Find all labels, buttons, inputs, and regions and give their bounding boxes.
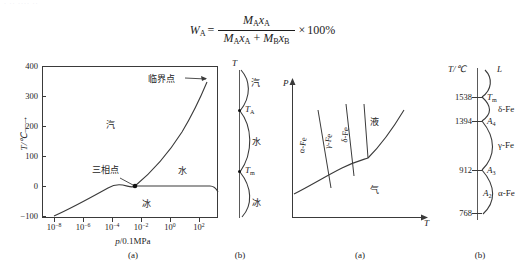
- water-triple-point-label: 三相点: [92, 163, 119, 176]
- water-tm-label: Tm: [245, 165, 255, 176]
- iron-point-a3: A3: [487, 165, 496, 176]
- iron-point-tm: Tm: [487, 92, 497, 103]
- iron-phase-boundaries: [292, 84, 428, 218]
- critical-point-arrowhead: [201, 76, 207, 81]
- formula-times: ×: [299, 23, 306, 38]
- iron-gamma-brace: [482, 121, 493, 170]
- iron-gas-region-label: 气: [370, 183, 379, 196]
- formula-numerator: MAxA: [238, 14, 275, 30]
- iron-delta-fe-label: δ-Fe: [339, 127, 351, 143]
- iron-t-panel-caption: (b): [455, 250, 505, 260]
- iron-gamma-fe-label: γ-Fe: [322, 133, 334, 149]
- water-melting-curve: [135, 186, 218, 192]
- water-xtick-1e-6: 10−6: [68, 222, 98, 232]
- water-ytick-400: 400: [8, 61, 38, 71]
- iron-vaporization-curve: [294, 110, 404, 194]
- formula-equals: =: [208, 23, 215, 38]
- iron-point-a2: A2: [483, 188, 492, 199]
- iron-temp-1394: 1394: [446, 116, 472, 126]
- water-ice-region-label: 冰: [142, 197, 151, 210]
- water-xtick-1e0: 100: [155, 222, 185, 232]
- scan-artifact-text: · ·· ···· ··: [4, 1, 154, 7]
- water-ytick-300: 300: [8, 91, 38, 101]
- water-ytick-0: 0: [8, 181, 38, 191]
- water-t-panel-caption: (b): [215, 250, 265, 260]
- iron-t-axis-label: T: [424, 218, 429, 228]
- iron-p-axis-label: P: [283, 78, 289, 88]
- water-t-ice-label: 冰: [252, 196, 261, 209]
- water-t-liquid-label: 水: [252, 135, 261, 148]
- formula-denominator: MAxA + MBxB: [218, 31, 294, 47]
- water-ytick-neg100: −100: [4, 211, 38, 221]
- iron-delta-fe-phase: δ-Fe: [498, 104, 514, 114]
- water-t-transition-curves: [228, 62, 268, 222]
- iron-alpha-fe-phase: α-Fe: [498, 188, 515, 198]
- water-t-vapor-label: 汽: [251, 76, 260, 89]
- water-vapor-region-label: 汽: [106, 118, 115, 131]
- iron-delta-liquid-boundary: [364, 104, 368, 158]
- iron-liquid-region-label: 液: [370, 115, 379, 128]
- iron-temp-912: 912: [446, 165, 472, 175]
- water-vaporization-curve: [54, 82, 207, 216]
- water-ta-label: TA: [245, 104, 254, 115]
- iron-gamma-fe-phase: γ-Fe: [498, 140, 514, 150]
- triple-point-leader: [120, 178, 133, 185]
- water-x-axis-label: p/0.1MPa: [78, 236, 188, 246]
- formula-percent: 100%: [307, 23, 335, 38]
- water-xtick-1e-8: 10−8: [39, 222, 69, 232]
- water-water-region-label: 水: [178, 164, 187, 177]
- water-xtick-1e2: 102: [184, 222, 214, 232]
- iron-pt-panel-caption: (a): [305, 250, 415, 260]
- iron-temp-1538: 1538: [446, 92, 472, 102]
- water-critical-point-label: 临界点: [148, 72, 175, 85]
- figure-page: · ·· ···· ·· WA= MAxA MAxA + MBxB × 100%…: [0, 0, 525, 274]
- formula-lhs: WA: [190, 23, 206, 38]
- water-xtick-1e-2: 10−2: [126, 222, 156, 232]
- water-phase-curves: [42, 66, 218, 218]
- water-y-axis-label: T/℃—→: [19, 103, 29, 163]
- triple-point-dot: [133, 184, 138, 189]
- formula-fraction: MAxA MAxA + MBxB: [218, 14, 294, 46]
- iron-point-a4: A4: [487, 116, 496, 127]
- water-liquid-brace: [240, 111, 250, 172]
- formula-wa: WA= MAxA MAxA + MBxB × 100%: [0, 14, 525, 46]
- iron-temp-768: 768: [446, 208, 472, 218]
- iron-t-axis-header: T/℃: [448, 64, 466, 74]
- water-panel-caption: (a): [78, 250, 188, 260]
- water-ice-brace: [240, 172, 250, 217]
- water-xtick-1e-4: 10−4: [97, 222, 127, 232]
